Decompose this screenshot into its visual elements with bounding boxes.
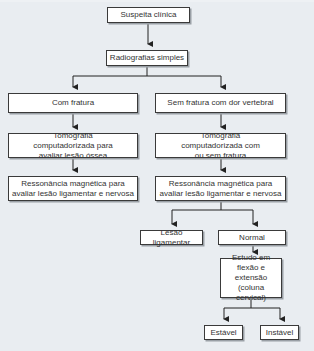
node-label: Suspeita clínica bbox=[120, 10, 176, 20]
node-label: Sem fratura com dor vertebral bbox=[167, 98, 273, 108]
node-ressonancia-left: Ressonância magnética para avaliar lesão… bbox=[8, 176, 138, 201]
node-com-fratura: Com fratura bbox=[8, 93, 138, 113]
node-radiografias-simples: Radiografias simples bbox=[106, 50, 188, 66]
node-label: Lesão ligamentar bbox=[143, 228, 200, 248]
node-tomografia-left: Tomografia computadorizada para avaliar … bbox=[8, 133, 138, 158]
node-instavel: Instável bbox=[260, 325, 299, 340]
node-label: Instável bbox=[266, 328, 294, 338]
node-lesao-ligamentar: Lesão ligamentar bbox=[140, 230, 203, 245]
node-tomografia-right: Tomografia computadorizada com ou sem fr… bbox=[155, 133, 286, 158]
node-estudo-flexao-extensao: Estudo em flexão e extensão (coluna cerv… bbox=[220, 258, 282, 298]
node-label: Com fratura bbox=[52, 98, 94, 108]
node-label: Radiografias simples bbox=[110, 53, 184, 63]
node-label: Estável bbox=[210, 328, 236, 338]
node-sem-fratura: Sem fratura com dor vertebral bbox=[155, 93, 286, 113]
node-label: Ressonância magnética para avaliar lesão… bbox=[12, 179, 134, 199]
node-label: Ressonância magnética para avaliar lesão… bbox=[159, 179, 282, 199]
node-label: Tomografia computadorizada com ou sem fr… bbox=[178, 131, 263, 161]
node-label: Normal bbox=[239, 233, 265, 243]
node-estavel: Estável bbox=[204, 325, 243, 340]
node-label: Tomografia computadorizada para avaliar … bbox=[31, 131, 115, 161]
node-suspeita-clinica: Suspeita clínica bbox=[107, 7, 190, 23]
node-ressonancia-right: Ressonância magnética para avaliar lesão… bbox=[155, 176, 286, 201]
flowchart-canvas: Suspeita clínica Radiografias simples Co… bbox=[0, 0, 314, 351]
node-label: Estudo em flexão e extensão (coluna cerv… bbox=[224, 253, 278, 303]
node-normal: Normal bbox=[218, 230, 286, 245]
